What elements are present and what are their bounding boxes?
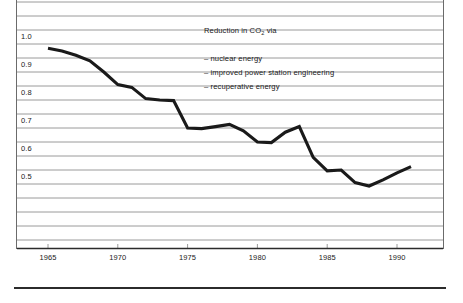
y-axis-tick-label: 1.0 — [21, 33, 32, 41]
annotation-title-after: via — [264, 26, 276, 35]
x-axis-tick-label: 1990 — [388, 254, 405, 262]
annotation-title-before: Reduction in CO — [204, 26, 261, 35]
y-axis-tick-label: 0.7 — [21, 117, 32, 125]
chart-figure: 1.00.90.80.70.60.5 196519701975198019851… — [0, 0, 463, 303]
plot-right-border — [443, 0, 444, 249]
annotation-item-improved-power-station: – improved power station engineering — [204, 69, 334, 77]
x-axis-tick-label: 1985 — [319, 254, 336, 262]
y-axis-tick-label: 0.5 — [21, 173, 32, 181]
x-axis-tick-label: 1965 — [39, 254, 56, 262]
y-axis-tick-label: 0.6 — [21, 145, 32, 153]
y-axis-tick-label: 0.8 — [21, 89, 32, 97]
x-axis-tick-label: 1970 — [109, 254, 126, 262]
annotation-title: Reduction in CO2 via — [204, 27, 277, 35]
x-tick-marks-group — [48, 244, 397, 248]
x-axis-tick-label: 1980 — [249, 254, 266, 262]
annotation-item-nuclear-energy: – nuclear energy — [204, 55, 262, 63]
x-axis-tick-label: 1975 — [179, 254, 196, 262]
annotation-title-subscript: 2 — [261, 30, 264, 36]
gridlines-group — [17, 2, 443, 240]
bottom-divider-rule — [14, 287, 446, 289]
annotation-item-recuperative-energy: – recuperative energy — [204, 83, 280, 91]
plot-left-border — [16, 0, 17, 249]
y-axis-tick-label: 0.9 — [21, 61, 32, 69]
